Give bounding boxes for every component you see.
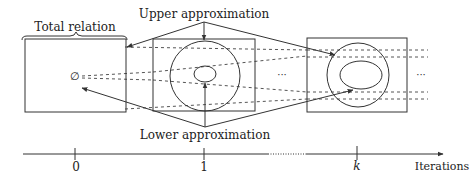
axis-label-iterations: Iterations bbox=[415, 160, 470, 173]
upper-approximation-label: Upper approximation bbox=[139, 7, 270, 21]
lower-approximation-label: Lower approximation bbox=[140, 128, 271, 142]
lower-approx-ellipse bbox=[194, 66, 216, 82]
tick-label-k: k bbox=[353, 159, 360, 173]
stage-k bbox=[307, 38, 407, 112]
upper-approximation-callout: Upper approximation bbox=[127, 7, 335, 55]
stage-k-box bbox=[307, 38, 407, 112]
iterations-axis: 0 1 k Iterations bbox=[23, 146, 470, 174]
arrow-lower-to-empty bbox=[82, 88, 205, 127]
total-relation-label: Total relation bbox=[34, 20, 116, 34]
stage-0-total-relation: Total relation ∅ bbox=[22, 20, 127, 112]
tick-label-1: 1 bbox=[200, 160, 208, 174]
ellipsis-middle: ··· bbox=[277, 69, 287, 80]
empty-set-symbol: ∅ bbox=[70, 70, 80, 83]
stage-1 bbox=[153, 39, 255, 111]
tick-label-0: 0 bbox=[72, 160, 80, 174]
arrow-lower-to-stagek bbox=[205, 90, 353, 127]
ellipsis-right: ··· bbox=[416, 69, 426, 80]
lower-approx-ellipse-k bbox=[340, 61, 382, 89]
upper-approx-ellipse-k bbox=[327, 43, 389, 107]
rough-set-approximation-diagram: Total relation ∅ ··· ··· Upper approxima… bbox=[0, 0, 472, 187]
